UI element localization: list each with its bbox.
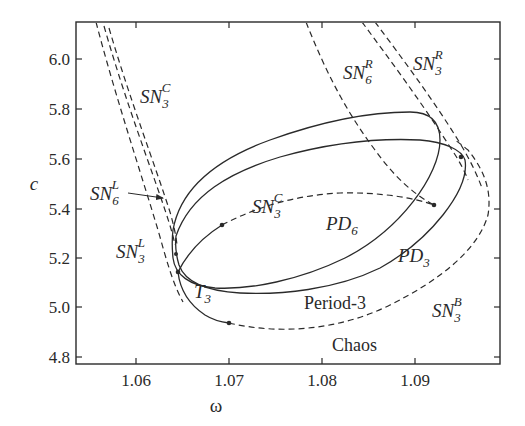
bifurcation-point [432, 203, 437, 208]
x-tick-label: 1.08 [307, 371, 337, 390]
x-axis-label: ω [210, 395, 223, 416]
bifurcation-point [227, 321, 232, 326]
label-sn3c-top: SN3C [140, 80, 171, 111]
y-tick-label: 5.0 [49, 298, 70, 317]
y-tick-label: 5.2 [49, 249, 70, 268]
pd3-curve [176, 140, 466, 294]
y-tick-label: 5.6 [49, 150, 70, 169]
label-period3: Period-3 [304, 293, 366, 313]
sn6l-arrow [128, 193, 163, 198]
sn3r-curve-a [362, 22, 468, 180]
y-tick-label: 4.8 [49, 348, 70, 367]
bifurcation-point [220, 223, 225, 228]
label-pd3: PD3 [397, 245, 430, 270]
x-tick-label: 1.06 [121, 371, 151, 390]
label-sn3c-inner: SN3C [252, 190, 283, 221]
x-tick-label: 1.09 [400, 371, 430, 390]
y-tick-label: 5.4 [49, 200, 71, 219]
label-sn6l: SN6L [90, 177, 119, 208]
label-sn3r: SN3R [413, 47, 443, 78]
label-sn6r: SN6R [343, 56, 373, 87]
y-tick-label: 6.0 [49, 50, 70, 69]
sn6r-curve [306, 22, 434, 205]
bifurcation-point [176, 270, 181, 275]
label-sn3b: SN3B [432, 294, 462, 325]
label-t3: T3 [194, 281, 212, 306]
y-axis-label: c [30, 173, 39, 194]
bifurcation-chart: 6.0 5.8 5.6 5.4 5.2 5.0 4.8 1.06 1.07 1.… [0, 0, 525, 426]
bifurcation-point [174, 252, 178, 256]
t3-branch [178, 225, 222, 272]
sn6l-curve [104, 26, 175, 245]
label-sn3l: SN3L [116, 235, 145, 266]
sn3c-left-curve [109, 28, 177, 245]
bifurcation-point [459, 155, 464, 160]
label-pd6: PD6 [325, 213, 358, 238]
y-tick-label: 5.8 [49, 100, 70, 119]
x-tick-label: 1.07 [214, 371, 244, 390]
label-chaos: Chaos [332, 335, 377, 355]
